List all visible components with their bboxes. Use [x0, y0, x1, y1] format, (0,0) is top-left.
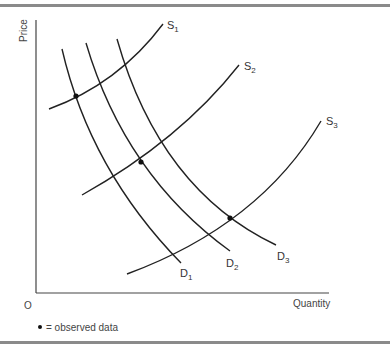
- label-d1: D1: [180, 267, 193, 282]
- label-d2: D2: [226, 257, 239, 272]
- x-axis-label: Quantity: [293, 298, 330, 309]
- demand-curve-d2: [86, 43, 230, 251]
- y-axis-label: Price: [18, 19, 29, 42]
- legend-dot-icon: [38, 325, 42, 329]
- supply-curve-s2: [82, 65, 239, 195]
- label-s3: S3: [326, 115, 338, 130]
- supply-demand-diagram: Price Quantity O S1 S2 S3 D1 D2 D3 = obs…: [0, 0, 390, 355]
- observed-point-2: [138, 159, 143, 164]
- demand-curve-d1: [62, 49, 181, 263]
- supply-curve-s3: [127, 121, 321, 274]
- observed-point-3: [227, 215, 232, 220]
- origin-label: O: [24, 300, 32, 311]
- legend-text: = observed data: [46, 322, 118, 333]
- label-s2: S2: [244, 60, 256, 75]
- label-d3: D3: [277, 250, 290, 265]
- label-s1: S1: [167, 19, 179, 34]
- observed-point-1: [73, 93, 78, 98]
